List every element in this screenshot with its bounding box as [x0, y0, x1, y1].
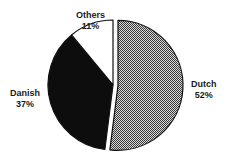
label-dutch-name: Dutch [191, 79, 217, 90]
label-others: Others 11% [76, 10, 105, 32]
label-danish-percent: 37% [10, 99, 40, 110]
label-dutch-percent: 52% [191, 90, 217, 101]
label-danish-name: Danish [10, 88, 40, 99]
label-danish: Danish 37% [10, 88, 40, 110]
label-others-percent: 11% [76, 21, 105, 32]
label-dutch: Dutch 52% [191, 79, 217, 101]
pie-slices [48, 20, 183, 150]
pie-slice-dutch [110, 20, 183, 150]
label-others-name: Others [76, 10, 105, 21]
